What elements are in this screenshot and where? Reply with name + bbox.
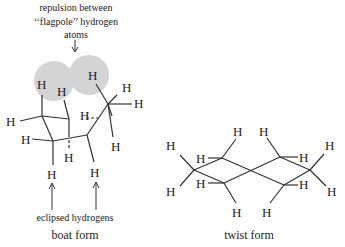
hydrogen: H — [64, 150, 73, 165]
hydrogen: H — [196, 151, 205, 166]
hydrogen: H — [166, 184, 175, 199]
hydrogen: H — [134, 96, 143, 111]
hydrogen: H — [299, 150, 308, 165]
twist-ring-bonds — [194, 157, 310, 185]
eclipsed-annotation: eclipsed hydrogens boat form — [37, 182, 114, 242]
eclipsed-hydrogen-left: H — [47, 167, 56, 182]
hydrogen: H — [325, 138, 334, 153]
hydrogen: H — [259, 124, 268, 139]
annotation-line-1: repulsion between — [39, 2, 112, 13]
hydrogen: H — [80, 108, 89, 123]
hydrogen: H — [111, 139, 120, 154]
hydrogen: H — [327, 184, 336, 199]
hydrogen: H — [299, 177, 308, 192]
hydrogen: H — [233, 124, 242, 139]
hydrogen: H — [232, 205, 241, 220]
twist-form: H H H H H H H H H H H H twist form — [166, 124, 336, 242]
flagpole-hydrogen-right: H — [88, 68, 97, 83]
eclipsed-hydrogen-right: H — [90, 165, 99, 180]
twist-form-caption: twist form — [224, 228, 274, 242]
conformation-diagram: H H H H H H H H H H H H repulsion betwee… — [0, 0, 345, 247]
hydrogen: H — [166, 138, 175, 153]
hydrogen: H — [196, 176, 205, 191]
hydrogen: H — [57, 84, 66, 99]
annotation-line-3: atoms — [64, 29, 88, 40]
hydrogen: H — [262, 205, 271, 220]
boat-form: H H H H H H H H H H H H repulsion betwee… — [6, 2, 143, 242]
twist-h-bonds — [180, 138, 326, 203]
hydrogen: H — [122, 80, 131, 95]
hydrogen: H — [6, 114, 15, 129]
flagpole-annotation: repulsion between ‘‘flagpole’’ hydrogen … — [34, 2, 118, 52]
boat-form-caption: boat form — [52, 228, 100, 242]
hydrogen: H — [21, 132, 30, 147]
boat-ring-bonds — [42, 104, 112, 141]
annotation-line-2: ‘‘flagpole’’ hydrogen — [34, 16, 118, 27]
eclipsed-hydrogens-label: eclipsed hydrogens — [37, 212, 114, 223]
flagpole-hydrogen-left: H — [37, 77, 46, 92]
